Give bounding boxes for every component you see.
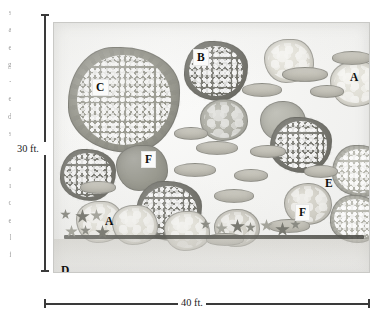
key-label-c: C bbox=[92, 79, 109, 96]
margin-text-line: d bbox=[0, 108, 11, 125]
tree-canopy-keyed bbox=[68, 47, 180, 153]
key-label-b: B bbox=[193, 49, 209, 66]
shrub-band bbox=[174, 127, 208, 140]
planting-plan-illustration: CBAFEFADD bbox=[53, 22, 370, 273]
shrub-band bbox=[242, 83, 282, 97]
margin-text-line: l bbox=[0, 229, 11, 246]
key-label-d: D bbox=[282, 272, 291, 273]
key-label-f: F bbox=[141, 151, 156, 168]
shrub-band bbox=[234, 169, 268, 182]
shrub-band bbox=[282, 67, 328, 82]
margin-text-line: a bbox=[0, 21, 11, 38]
shrub-band bbox=[268, 219, 310, 233]
shrub-band bbox=[310, 85, 344, 98]
horizontal-scale-label: 40 ft. bbox=[178, 297, 206, 308]
margin-text-line: g bbox=[0, 56, 11, 73]
key-label-d: D bbox=[61, 265, 70, 273]
horizontal-scale-bar bbox=[44, 303, 370, 305]
shrub-band bbox=[174, 163, 216, 177]
shrub-band bbox=[196, 141, 238, 155]
vertical-scale-label: 30 ft. bbox=[6, 142, 50, 155]
margin-text-line: e bbox=[0, 212, 11, 229]
shrub-band bbox=[80, 181, 116, 194]
margin-text-line: - bbox=[0, 73, 11, 90]
margin-text-line: e bbox=[0, 90, 11, 107]
shrub-band bbox=[214, 189, 254, 203]
margin-text-line: r bbox=[0, 177, 11, 194]
page-margin-text: s a e g - e d s n a r c e l f bbox=[0, 4, 11, 319]
key-label-a: A bbox=[105, 216, 114, 228]
key-label-e: E bbox=[325, 178, 333, 190]
margin-text-line: a bbox=[0, 160, 11, 177]
margin-text-line: s bbox=[0, 4, 11, 21]
margin-text-line: s bbox=[0, 125, 11, 142]
ground-flower-left bbox=[60, 209, 71, 220]
key-label-f: F bbox=[295, 204, 310, 221]
margin-text-line: e bbox=[0, 39, 11, 56]
ground-wash bbox=[54, 239, 369, 272]
tree-canopy-keyed bbox=[330, 61, 370, 107]
margin-text-line: f bbox=[0, 246, 11, 263]
shrub-band bbox=[332, 51, 370, 65]
shrub-band bbox=[250, 145, 286, 158]
key-label-a: A bbox=[350, 72, 359, 84]
margin-text-line: c bbox=[0, 194, 11, 211]
